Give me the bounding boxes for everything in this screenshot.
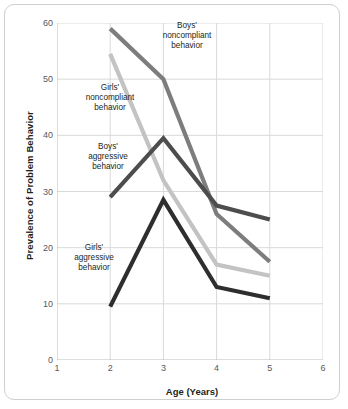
series-annotation-label: Girls' aggressive behavior bbox=[49, 243, 139, 274]
x-tick-label: 3 bbox=[151, 363, 175, 373]
y-tick-label: 10 bbox=[29, 299, 53, 309]
line-chart-svg bbox=[57, 23, 323, 360]
series-annotation-label: Boys' noncompliant behavior bbox=[139, 21, 235, 52]
y-axis-tick-labels: 0102030405060 bbox=[27, 23, 53, 360]
x-tick-label: 6 bbox=[311, 363, 335, 373]
y-tick-label: 60 bbox=[29, 18, 53, 28]
y-tick-label: 40 bbox=[29, 130, 53, 140]
x-tick-label: 4 bbox=[205, 363, 229, 373]
x-axis-title: Age (Years) bbox=[57, 386, 327, 397]
x-tick-label: 2 bbox=[98, 363, 122, 373]
plot-area bbox=[57, 23, 323, 360]
series-annotation-label: Girls' noncompliant behavior bbox=[62, 83, 158, 114]
y-tick-label: 50 bbox=[29, 74, 53, 84]
series-annotation-label: Boys' aggressive behavior bbox=[63, 142, 153, 173]
chart-frame: Prevalence of Problem Behavior 010203040… bbox=[4, 4, 340, 400]
x-axis-tick-labels: 123456 bbox=[57, 363, 323, 377]
x-tick-label: 5 bbox=[258, 363, 282, 373]
x-tick-label: 1 bbox=[45, 363, 69, 373]
y-tick-label: 30 bbox=[29, 187, 53, 197]
